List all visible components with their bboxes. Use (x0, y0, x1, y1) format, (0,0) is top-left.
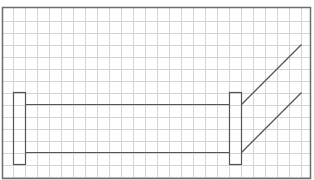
grid-diagram (0, 0, 314, 180)
upper-diagonal (242, 45, 302, 105)
lower-diagonal (242, 93, 302, 153)
